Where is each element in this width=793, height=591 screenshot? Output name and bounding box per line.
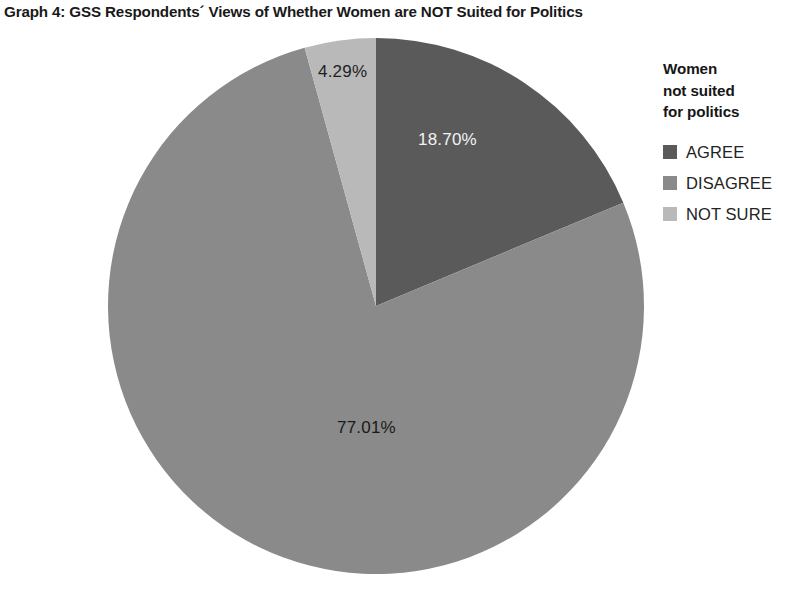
- legend-item-agree[interactable]: AGREE: [663, 137, 791, 168]
- pie-slice-label-agree: 18.70%: [418, 130, 477, 150]
- legend-item-disagree[interactable]: DISAGREE: [663, 168, 791, 199]
- legend: Women not suited for politics AGREE DISA…: [663, 58, 791, 230]
- legend-swatch-icon-not-sure: [663, 207, 677, 221]
- legend-label-disagree: DISAGREE: [686, 175, 772, 192]
- legend-swatch-icon-disagree: [663, 176, 677, 190]
- legend-title-line-3: for politics: [663, 101, 791, 123]
- pie-chart-svg: [0, 0, 680, 591]
- legend-title-line-2: not suited: [663, 80, 791, 102]
- legend-swatch-icon-agree: [663, 145, 677, 159]
- legend-title: Women not suited for politics: [663, 58, 791, 123]
- legend-title-line-1: Women: [663, 58, 791, 80]
- legend-item-not-sure[interactable]: NOT SURE: [663, 199, 791, 230]
- pie-slice-group: [108, 38, 644, 574]
- pie-slice-label-disagree: 77.01%: [337, 418, 396, 438]
- legend-label-not-sure: NOT SURE: [686, 206, 772, 223]
- pie-slice-label-not-sure: 4.29%: [318, 62, 367, 82]
- legend-label-agree: AGREE: [686, 144, 744, 161]
- pie-chart: 18.70% 77.01% 4.29%: [0, 0, 680, 591]
